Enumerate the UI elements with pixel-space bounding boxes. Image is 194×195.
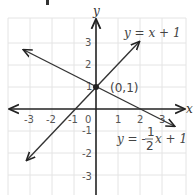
grid	[8, 18, 186, 195]
graph-figure: x y -3 -2 -1 0 1 2 3 3 2 1 -1 -2 -3 (0,1…	[0, 0, 194, 195]
cropped-glyph-fragment	[46, 0, 49, 5]
x-tick: -2	[46, 114, 56, 125]
x-tick: -3	[24, 114, 34, 125]
equation-label-line2-prefix: y = -	[116, 132, 146, 146]
x-tick-labels: -3 -2 -1 0 1 2 3	[24, 114, 165, 125]
x-tick: 0	[85, 114, 91, 125]
fraction-numerator: 1	[147, 125, 155, 139]
intersection-point	[93, 84, 99, 90]
y-tick: -1	[82, 125, 92, 136]
x-tick: 2	[137, 114, 143, 125]
y-axis-label: y	[92, 4, 100, 18]
x-tick: 1	[115, 114, 121, 125]
equation-label-line2: y = - 1 2 x + 1	[116, 125, 187, 153]
y-tick: -2	[82, 148, 92, 159]
fraction-denominator: 2	[146, 139, 154, 153]
equation-label-line2-suffix: x + 1	[155, 132, 187, 146]
y-tick: -3	[82, 171, 92, 182]
y-tick: 3	[85, 37, 91, 48]
intersection-label: (0,1)	[110, 81, 138, 95]
x-axis-label: x	[186, 102, 193, 116]
y-tick: 2	[85, 59, 91, 70]
equation-label-line1: y = x + 1	[123, 26, 181, 40]
